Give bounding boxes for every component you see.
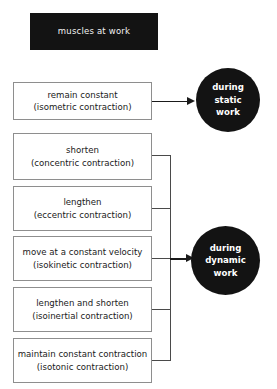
box-eccentric-secondary: (eccentric contraction) <box>34 209 132 222</box>
circle-dynamic-line-2: dynamic <box>205 254 246 267</box>
circle-static-line-3: work <box>216 106 240 119</box>
diagram-title-text: muscles at work <box>58 27 130 36</box>
connector-stub-eccentric <box>152 208 171 209</box>
arrowhead-static <box>187 97 195 105</box>
connector-stub-concentric <box>152 155 171 156</box>
box-concentric: shorten (concentric contraction) <box>13 133 152 180</box>
box-isokinetic-secondary: (isokinetic contraction) <box>33 259 132 272</box>
diagram-title-bar: muscles at work <box>30 13 158 50</box>
box-concentric-secondary: (concentric contraction) <box>31 157 134 170</box>
box-isoinertial-secondary: (isoinertial contraction) <box>32 310 132 323</box>
box-isoinertial: lengthen and shorten (isoinertial contra… <box>13 287 152 332</box>
connector-stub-isotonic <box>152 360 171 361</box>
box-eccentric-primary: lengthen <box>63 196 101 209</box>
box-isokinetic-primary: move at a constant velocity <box>23 246 143 259</box>
box-isoinertial-primary: lengthen and shorten <box>36 297 129 310</box>
circle-during-dynamic-work: during dynamic work <box>191 226 260 295</box>
box-isometric-primary: remain constant <box>47 89 117 102</box>
box-concentric-primary: shorten <box>66 144 99 157</box>
box-isotonic: maintain constant contraction (isotonic … <box>13 338 152 383</box>
circle-dynamic-line-3: work <box>214 267 238 280</box>
circle-during-static-work: during static work <box>196 68 260 132</box>
box-isometric-secondary: (isometric contraction) <box>33 101 131 114</box>
connector-stub-isokinetic <box>152 258 171 259</box>
muscles-at-work-diagram: muscles at work remain constant (isometr… <box>0 0 277 389</box>
box-isometric: remain constant (isometric contraction) <box>13 82 152 120</box>
box-isotonic-secondary: (isotonic contraction) <box>37 361 129 374</box>
circle-static-line-1: during <box>212 81 244 94</box>
box-eccentric: lengthen (eccentric contraction) <box>13 186 152 231</box>
box-isotonic-primary: maintain constant contraction <box>18 348 148 361</box>
arrow-shaft-static <box>152 101 188 103</box>
box-isokinetic: move at a constant velocity (isokinetic … <box>13 236 152 281</box>
circle-dynamic-line-1: during <box>210 242 242 255</box>
connector-stub-isoinertial <box>152 309 171 310</box>
circle-static-line-2: static <box>214 94 241 107</box>
